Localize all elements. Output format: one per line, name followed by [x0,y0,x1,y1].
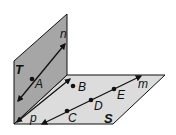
label-line-m: m [138,77,148,91]
label-point-D: D [94,99,103,113]
label-line-n: n [60,27,67,41]
point-A [30,77,35,82]
label-line-p: p [29,111,37,125]
label-plane-T: T [15,62,24,77]
label-point-A: A [34,77,43,91]
point-B [71,84,76,89]
label-point-C: C [68,111,77,125]
point-D [89,98,94,103]
two-planes-diagram: T S n p m A B C D E [0,0,176,135]
label-point-E: E [117,88,126,102]
diagram-canvas: T S n p m A B C D E [0,0,176,135]
label-point-B: B [78,80,86,94]
point-E [112,87,117,92]
label-plane-S: S [104,111,113,126]
